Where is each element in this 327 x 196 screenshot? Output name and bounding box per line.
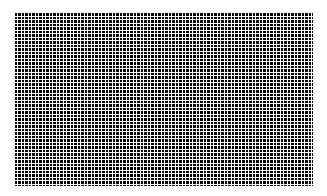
screenshot-canvas	[0, 0, 327, 196]
halftone-grid-pattern	[14, 12, 313, 186]
